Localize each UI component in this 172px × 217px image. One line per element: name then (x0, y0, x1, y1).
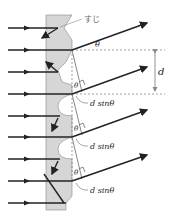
perpendiculars (72, 50, 85, 179)
theta-label-1: θ (95, 40, 100, 49)
dashed-guides (72, 50, 165, 181)
theta-label-3: θ (74, 125, 79, 133)
grating-diagram: d θ θ θ θ d sinθ d sinθ d sinθ すじ (0, 0, 172, 217)
d-label: d (158, 66, 164, 77)
groove-label: すじ (84, 15, 100, 24)
theta-label-2: θ (74, 82, 79, 90)
dsin-label-1: d sinθ (90, 99, 114, 108)
dsin-label-3: d sinθ (90, 186, 114, 195)
dsin-label-2: d sinθ (90, 142, 114, 151)
theta-label-4: θ (74, 169, 79, 177)
